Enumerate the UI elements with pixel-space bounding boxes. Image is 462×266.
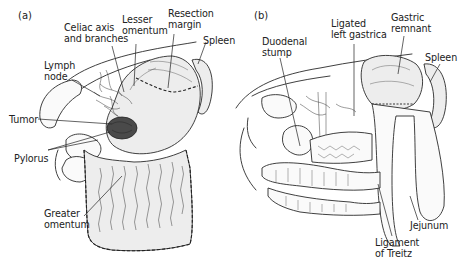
label-lymph-node: Lymph node (44, 60, 75, 82)
panel-b-drawing (236, 36, 446, 246)
label-lesser-omentum: Lesser omentum (122, 14, 168, 36)
label-resection-margin: Resection margin (168, 8, 214, 30)
label-ligament-of-treitz: Ligament of Treitz (375, 237, 419, 259)
panel-label-a: (a) (18, 10, 32, 21)
label-spleen-a: Spleen (203, 35, 235, 46)
panel-label-b: (b) (254, 10, 268, 21)
label-greater-omentum: Greater omentum (44, 208, 90, 230)
label-tumor: Tumor (9, 114, 38, 125)
label-gastric-remnant: Gastric remnant (391, 12, 431, 34)
colon (262, 163, 380, 190)
duodenal-stump (282, 126, 312, 155)
gastric-remnant (361, 55, 422, 110)
label-ligated-left-gastrica: Ligated left gastrica (331, 18, 387, 40)
label-jejunum: Jejunum (410, 220, 448, 231)
label-spleen-b: Spleen (425, 52, 457, 63)
label-celiac-axis: Celiac axis and branches (64, 22, 128, 44)
label-pylorus: Pylorus (14, 153, 48, 164)
leader-jejunum (410, 196, 418, 220)
tumor-mass (107, 117, 137, 139)
label-duodenal-stump: Duodenal stump (262, 36, 307, 58)
